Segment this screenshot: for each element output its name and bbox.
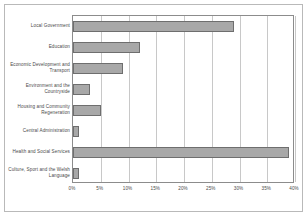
figure-frame: Local GovernmentEducationEconomic Develo…	[4, 4, 303, 212]
bar	[73, 84, 90, 95]
bar	[73, 21, 234, 32]
bar-row	[73, 126, 293, 138]
bar	[73, 63, 123, 74]
bar-row	[73, 42, 293, 54]
bar-row	[73, 21, 293, 33]
category-label: Education	[8, 44, 70, 50]
category-label: Environment and the Countryside	[8, 83, 70, 94]
bar-row	[73, 105, 293, 117]
chart-container: Local GovernmentEducationEconomic Develo…	[5, 5, 304, 213]
x-tick-label: 30%	[227, 186, 251, 191]
category-label: Economic Development and Transport	[8, 62, 70, 73]
bar-row	[73, 147, 293, 159]
bar-row	[73, 84, 293, 96]
x-tick-label: 35%	[254, 186, 278, 191]
bar-row	[73, 168, 293, 180]
category-label: Central Administration	[8, 128, 70, 134]
bar-row	[73, 63, 293, 75]
x-tick-label: 0%	[60, 186, 84, 191]
x-tick-label: 40%	[282, 186, 306, 191]
x-tick-label: 10%	[116, 186, 140, 191]
bar	[73, 168, 79, 179]
category-label: Local Government	[8, 23, 70, 29]
plot-area	[72, 15, 294, 183]
bar	[73, 42, 140, 53]
category-label: Housing and Community Regeneration	[8, 104, 70, 115]
gridline	[295, 16, 296, 182]
category-label: Culture, Sport and the Welsh Language	[8, 167, 70, 178]
bar	[73, 126, 79, 137]
category-label: Health and Social Services	[8, 149, 70, 155]
x-tick-label: 20%	[171, 186, 195, 191]
x-tick-label: 25%	[199, 186, 223, 191]
bars-group	[73, 16, 293, 182]
bar	[73, 147, 289, 158]
x-tick-label: 5%	[88, 186, 112, 191]
x-tick-label: 15%	[143, 186, 167, 191]
bar	[73, 105, 101, 116]
